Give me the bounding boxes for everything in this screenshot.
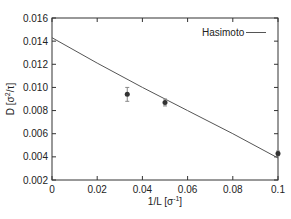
data-points [125,87,281,155]
y-tick-label: 0.002 [23,175,48,186]
x-tick-label: 0.04 [133,184,153,195]
x-axis-label: 1/L [σ-1] [148,195,183,207]
y-tick-label: 0.012 [23,59,48,70]
x-tick-label: 0.06 [178,184,198,195]
data-point [276,151,281,156]
data-point [125,92,130,97]
y-tick-label: 0.016 [23,13,48,24]
y-tick-label: 0.008 [23,105,48,116]
y-tick-label: 0.010 [23,82,48,93]
chart: 0.0020.0040.0060.0080.0100.0120.0140.016… [0,0,291,219]
y-tick-label: 0.004 [23,151,48,162]
y-axis-ticks: 0.0020.0040.0060.0080.0100.0120.0140.016 [23,13,278,186]
data-point [163,100,168,105]
y-tick-label: 0.014 [23,36,48,47]
y-tick-label: 0.006 [23,128,48,139]
hasimoto-curve [52,38,278,158]
x-axis-ticks: 00.020.040.060.080.1 [49,18,285,195]
x-tick-label: 0.1 [271,184,285,195]
x-tick-label: 0 [49,184,55,195]
y-axis-label: D [σ2/τ] [4,83,16,116]
x-tick-label: 0.08 [223,184,243,195]
x-tick-label: 0.02 [87,184,107,195]
legend-label: Hasimoto [202,27,245,38]
legend: Hasimoto [202,27,266,38]
